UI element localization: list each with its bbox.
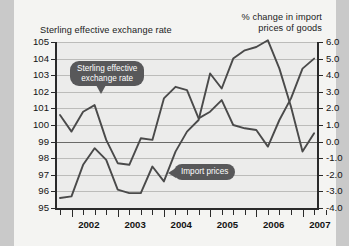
x-axis-tick: [95, 210, 96, 215]
left-axis-tick: [51, 142, 55, 143]
x-axis-tick-label: 2007: [300, 219, 340, 230]
x-axis-tick: [233, 210, 234, 215]
x-axis-tick-label: 2003: [115, 219, 155, 230]
right-axis-tick: [319, 108, 323, 109]
left-axis-tick-label: 95: [27, 203, 49, 213]
right-axis-tick-label: 2.0: [326, 103, 349, 113]
x-axis-tick: [268, 210, 269, 215]
left-axis-tick-label: 100: [27, 120, 49, 130]
left-axis-tick: [51, 75, 55, 76]
right-axis-tick: [319, 92, 323, 93]
x-axis-tick: [279, 210, 280, 215]
right-axis-tick-label: 4.0: [326, 70, 349, 80]
x-axis-tick-label: 2006: [254, 219, 294, 230]
left-axis-tick: [51, 125, 55, 126]
x-axis-tick: [187, 210, 188, 215]
right-axis-tick-label: 5.0: [326, 54, 349, 64]
x-axis-tick: [106, 210, 107, 215]
left-axis-tick-label: 103: [27, 70, 49, 80]
right-axis-tick: [319, 191, 323, 192]
right-axis-tick-label: 1.0: [326, 120, 349, 130]
callout-import-label: Import prices: [181, 167, 228, 176]
left-axis-tick-label: 99: [27, 137, 49, 147]
left-axis-tick-label: 97: [27, 170, 49, 180]
left-axis-tick-label: 96: [27, 186, 49, 196]
right-axis-tick: [319, 125, 323, 126]
right-axis-tick-label: -3.0: [326, 186, 349, 196]
x-axis-tick: [210, 210, 211, 217]
right-axis-tick: [319, 175, 323, 176]
callout-sterling-line1: Sterling effective: [77, 64, 137, 74]
x-axis-tick: [199, 210, 200, 215]
x-axis-tick: [129, 210, 130, 215]
callout-tail-icon: [168, 168, 176, 178]
callout-import-prices: Import prices: [174, 164, 235, 180]
right-axis-tick: [319, 142, 323, 143]
right-axis-tick-label: -1.0: [326, 153, 349, 163]
right-axis-tick: [319, 208, 323, 209]
x-axis-tick-label: 2002: [69, 219, 109, 230]
x-axis-tick: [291, 210, 292, 215]
left-axis-tick: [51, 175, 55, 176]
left-axis-tick-label: 98: [27, 153, 49, 163]
x-axis-tick: [141, 210, 142, 215]
right-axis-tick-label: 3.0: [326, 87, 349, 97]
x-axis-tick: [326, 210, 327, 215]
x-axis-tick: [83, 210, 84, 215]
chart-panel: Sterling effective exchange rate % chang…: [14, 0, 336, 246]
x-axis-tick: [72, 210, 73, 217]
left-axis-tick: [51, 92, 55, 93]
left-axis-tick: [51, 59, 55, 60]
left-axis-tick: [51, 42, 55, 43]
left-axis-tick: [51, 191, 55, 192]
right-axis-tick-label: -4.0: [326, 203, 349, 213]
callout-tail-icon: [96, 85, 106, 94]
left-axis-tick-label: 105: [27, 37, 49, 47]
callout-sterling-effective-exchange-rate: Sterling effective exchange rate: [70, 61, 144, 86]
right-axis-tick-label: -2.0: [326, 170, 349, 180]
left-axis-tick: [51, 158, 55, 159]
x-axis-tick: [314, 210, 315, 215]
right-axis-tick: [319, 59, 323, 60]
x-axis-tick: [245, 210, 246, 215]
left-axis-tick: [51, 108, 55, 109]
right-axis-tick: [319, 75, 323, 76]
callout-sterling-line2: exchange rate: [77, 74, 137, 84]
left-axis-tick-label: 102: [27, 87, 49, 97]
x-axis-tick-label: 2004: [161, 219, 201, 230]
right-axis-tick-label: 0.0: [326, 137, 349, 147]
data-lines: [14, 0, 349, 246]
x-axis-tick: [303, 210, 304, 217]
x-axis-tick: [152, 210, 153, 215]
x-axis-tick: [222, 210, 223, 215]
x-axis-tick-label: 2005: [207, 219, 247, 230]
x-axis-tick: [256, 210, 257, 217]
right-axis-tick: [319, 42, 323, 43]
left-axis-tick-label: 101: [27, 103, 49, 113]
x-axis-tick: [118, 210, 119, 217]
right-axis-tick-label: 6.0: [326, 37, 349, 47]
left-axis-tick-label: 104: [27, 54, 49, 64]
right-axis-tick: [319, 158, 323, 159]
x-axis-tick: [60, 210, 61, 215]
chart-page: Sterling effective exchange rate % chang…: [0, 0, 349, 246]
x-axis-tick: [164, 210, 165, 217]
left-axis-tick: [51, 208, 55, 209]
x-axis-tick: [175, 210, 176, 215]
